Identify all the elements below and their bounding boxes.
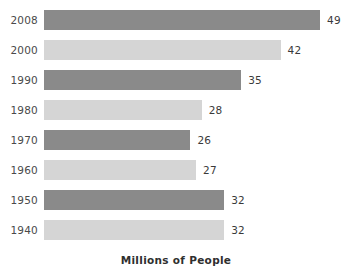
category-label-1960: 1960 [0, 160, 38, 180]
table-row: 1980 28 [0, 100, 352, 120]
bar-track-1940: 32 [44, 220, 352, 240]
bar-value-1980: 28 [209, 100, 223, 120]
bar-track-1950: 32 [44, 190, 352, 210]
bar-1940 [44, 220, 224, 240]
bar-track-1970: 26 [44, 130, 352, 150]
category-label-1970: 1970 [0, 130, 38, 150]
table-row: 1940 32 [0, 220, 352, 240]
bar-track-2008: 49 [44, 10, 352, 30]
bar-2000 [44, 40, 281, 60]
bar-1970 [44, 130, 190, 150]
category-label-1950: 1950 [0, 190, 38, 210]
bar-value-1950: 32 [231, 190, 245, 210]
bar-value-1960: 27 [203, 160, 217, 180]
bar-track-2000: 42 [44, 40, 352, 60]
table-row: 1960 27 [0, 160, 352, 180]
bar-value-1940: 32 [231, 220, 245, 240]
category-label-1990: 1990 [0, 70, 38, 90]
category-label-2008: 2008 [0, 10, 38, 30]
bar-track-1960: 27 [44, 160, 352, 180]
horizontal-bar-chart: 2008 49 2000 42 1990 35 1980 28 [0, 0, 352, 276]
bar-1950 [44, 190, 224, 210]
category-label-2000: 2000 [0, 40, 38, 60]
table-row: 1970 26 [0, 130, 352, 150]
bar-value-2008: 49 [327, 10, 341, 30]
bar-1990 [44, 70, 241, 90]
bar-2008 [44, 10, 320, 30]
bar-track-1980: 28 [44, 100, 352, 120]
category-label-1980: 1980 [0, 100, 38, 120]
category-label-1940: 1940 [0, 220, 38, 240]
bar-1960 [44, 160, 196, 180]
bar-1980 [44, 100, 202, 120]
table-row: 2008 49 [0, 10, 352, 30]
bar-value-2000: 42 [288, 40, 302, 60]
x-axis-title: Millions of People [0, 254, 352, 266]
plot-area: 2008 49 2000 42 1990 35 1980 28 [0, 10, 352, 250]
bar-track-1990: 35 [44, 70, 352, 90]
table-row: 1990 35 [0, 70, 352, 90]
table-row: 1950 32 [0, 190, 352, 210]
table-row: 2000 42 [0, 40, 352, 60]
bar-value-1970: 26 [197, 130, 211, 150]
bar-value-1990: 35 [248, 70, 262, 90]
